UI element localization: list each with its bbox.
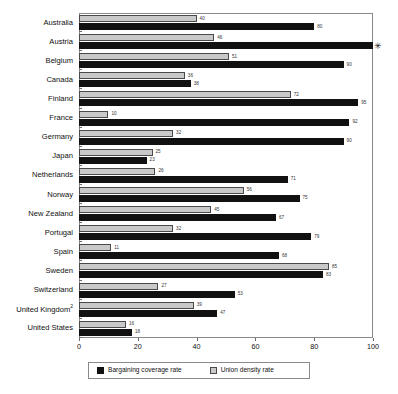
- bar-union-density: [79, 321, 126, 328]
- category-label-united-states: United States: [27, 325, 73, 333]
- bar-value-union-density: 26: [158, 169, 163, 174]
- bar-value-union-density: 39: [197, 303, 202, 308]
- x-axis-tick: [138, 338, 139, 341]
- bar-group-bargaining-coverage: 18: [79, 329, 373, 336]
- category-label-switzerland: Switzerland: [34, 286, 73, 294]
- x-axis-tick-label: 60: [251, 343, 259, 350]
- legend-swatch-icon-bargaining: [97, 367, 104, 374]
- category-label-sweden: Sweden: [46, 267, 73, 275]
- chart-row: Portugal3279: [79, 223, 373, 242]
- bar-value-bargaining-coverage: 92: [352, 120, 357, 125]
- bar-union-density: [79, 244, 111, 251]
- bar-value-union-density: 11: [114, 246, 119, 251]
- category-label-spain: Spain: [54, 248, 73, 256]
- bar-value-bargaining-coverage: 90: [347, 62, 352, 67]
- chart-row: Sweden8583: [79, 261, 373, 280]
- legend-label-bargaining: Bargaining coverage rate: [108, 367, 182, 374]
- bar-value-union-density: 36: [188, 74, 193, 79]
- chart-row: Austria46✳: [79, 32, 373, 51]
- bar-group-bargaining-coverage: 79: [79, 233, 373, 240]
- bar-value-bargaining-coverage: 38: [194, 82, 199, 87]
- bar-bargaining-coverage: [79, 271, 323, 278]
- bar-union-density: [79, 302, 194, 309]
- bar-group-union-density: 16: [79, 321, 373, 328]
- bar-group-union-density: 85: [79, 263, 373, 270]
- chart-row: Japan2523: [79, 147, 373, 166]
- bar-union-density: [79, 91, 291, 98]
- chart-row: Spain1168: [79, 242, 373, 261]
- chart-row: Switzerland2753: [79, 281, 373, 300]
- bar-group-union-density: 72: [79, 91, 373, 98]
- chart-row: New Zealand4567: [79, 204, 373, 223]
- bar-value-bargaining-coverage: 18: [135, 330, 140, 335]
- bar-value-bargaining-coverage: 53: [238, 292, 243, 297]
- bar-bargaining-coverage: [79, 233, 311, 240]
- bar-union-density: [79, 53, 229, 60]
- bar-group-bargaining-coverage: 95: [79, 99, 373, 106]
- bar-group-bargaining-coverage: 75: [79, 195, 373, 202]
- bar-group-union-density: 39: [79, 302, 373, 309]
- bar-value-bargaining-coverage: 67: [279, 215, 284, 220]
- bar-value-bargaining-coverage: 47: [220, 311, 225, 316]
- bar-group-union-density: 56: [79, 187, 373, 194]
- bar-group-bargaining-coverage: 90: [79, 61, 373, 68]
- bar-group-union-density: 36: [79, 72, 373, 79]
- bar-group-bargaining-coverage: 23: [79, 157, 373, 164]
- bar-union-density: [79, 15, 197, 22]
- bar-group-union-density: 11: [79, 244, 373, 251]
- x-axis-tick: [373, 338, 374, 341]
- chart-row: United States1618: [79, 319, 373, 338]
- bar-group-bargaining-coverage: 80: [79, 23, 373, 30]
- bar-bargaining-coverage: [79, 252, 279, 259]
- bar-group-bargaining-coverage: 67: [79, 214, 373, 221]
- chart-row: Germany3290: [79, 128, 373, 147]
- bar-group-union-density: 27: [79, 283, 373, 290]
- x-axis-tick-label: 0: [77, 343, 81, 350]
- category-label-france: France: [49, 114, 73, 122]
- bar-group-union-density: 40: [79, 15, 373, 22]
- bar-value-union-density: 27: [161, 284, 166, 289]
- bar-group-union-density: 26: [79, 168, 373, 175]
- bar-value-union-density: 45: [214, 207, 219, 212]
- chart-row: United Kingdom23947: [79, 300, 373, 319]
- bar-value-bargaining-coverage: 83: [326, 273, 331, 278]
- x-axis-tick-label: 100: [367, 343, 379, 350]
- bar-group-bargaining-coverage: 68: [79, 252, 373, 259]
- bar-value-union-density: 72: [294, 93, 299, 98]
- bar-value-bargaining-coverage: 79: [314, 234, 319, 239]
- bar-bargaining-coverage: [79, 310, 217, 317]
- bar-value-bargaining-coverage: 75: [303, 196, 308, 201]
- x-axis-tick-label: 20: [134, 343, 142, 350]
- bar-value-union-density: 40: [200, 16, 205, 21]
- bar-group-bargaining-coverage: 90: [79, 138, 373, 145]
- bar-group-bargaining-coverage: 47: [79, 310, 373, 317]
- x-axis-tick-label: 40: [193, 343, 201, 350]
- bar-union-density: [79, 34, 214, 41]
- bar-group-bargaining-coverage: [79, 42, 373, 49]
- bar-value-bargaining-coverage: 90: [347, 139, 352, 144]
- legend-item-union-density-rate: Union density rate: [210, 367, 274, 374]
- category-label-portugal: Portugal: [45, 229, 73, 237]
- chart-row: Netherlands2671: [79, 166, 373, 185]
- bar-bargaining-coverage: [79, 119, 349, 126]
- bar-value-union-density: 56: [247, 188, 252, 193]
- bar-value-union-density: 32: [176, 131, 181, 136]
- chart-row: Finland7295: [79, 89, 373, 108]
- category-label-austria: Austria: [49, 38, 73, 46]
- x-axis-tick: [314, 338, 315, 341]
- bar-value-bargaining-coverage: 80: [317, 24, 322, 29]
- bar-bargaining-coverage: [79, 138, 344, 145]
- category-label-australia: Australia: [43, 19, 73, 27]
- bar-group-bargaining-coverage: 83: [79, 271, 373, 278]
- bar-bargaining-coverage: [79, 23, 314, 30]
- bar-union-density: [79, 168, 155, 175]
- bar-union-density: [79, 111, 108, 118]
- category-label-netherlands: Netherlands: [32, 172, 73, 180]
- bar-group-union-density: 25: [79, 149, 373, 156]
- bar-value-bargaining-coverage: 95: [361, 101, 366, 106]
- category-label-norway: Norway: [47, 191, 73, 199]
- bar-value-union-density: 32: [176, 226, 181, 231]
- bar-value-union-density: 16: [129, 322, 134, 327]
- bar-group-union-density: 45: [79, 206, 373, 213]
- legend-label-union-density: Union density rate: [221, 367, 274, 374]
